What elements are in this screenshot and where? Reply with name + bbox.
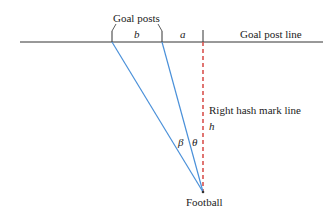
distance-b-label: b	[134, 29, 140, 40]
distance-h-label: h	[209, 121, 215, 132]
football-point	[202, 191, 205, 194]
goal-post-line-label: Goal post line	[240, 29, 302, 40]
right-hash-mark-line-label: Right hash mark line	[209, 105, 301, 116]
sight-line-right-post	[162, 42, 203, 192]
angle-beta-label: β	[178, 137, 183, 148]
football-label: Football	[186, 197, 223, 208]
angle-theta-label: θ	[192, 137, 197, 148]
goal-posts-label: Goal posts	[113, 13, 160, 24]
distance-a-label: a	[180, 29, 186, 40]
sight-line-left-post	[112, 42, 203, 192]
